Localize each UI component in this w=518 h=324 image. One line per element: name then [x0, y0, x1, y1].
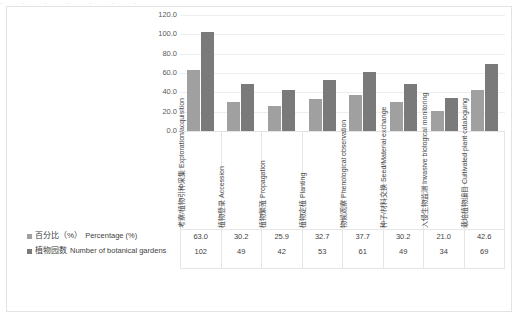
value-percentage: 25.9 [274, 232, 289, 242]
category-label-en: Seed/Material exchange [379, 107, 388, 183]
data-table-cell: 25.942 [261, 230, 302, 268]
category-label-cell: 植物登录Accession [221, 132, 262, 230]
category-label-cn: 物候观察 [339, 200, 348, 228]
chart-data-table: 百分比（%） Percentage (%) 植物园数 Number of bot… [7, 229, 511, 269]
bar-percentage[interactable] [268, 106, 281, 131]
category-label-cn: 考察/植物引种采集 [177, 170, 186, 228]
data-table-cell: 42.669 [464, 230, 506, 268]
category-label-cn: 种子/材料交换 [379, 184, 388, 228]
legend: 百分比（%） Percentage (%) 植物园数 Number of bot… [7, 229, 180, 269]
category-label-en: Propagation [258, 160, 267, 198]
legend-item-garden-count: 植物园数 Number of botanical gardens [27, 246, 180, 256]
value-garden-count: 61 [359, 247, 367, 257]
bar-garden-count[interactable] [241, 84, 254, 131]
category-label-cn: 入侵生物监测 [420, 186, 429, 228]
data-table-cell: 30.249 [221, 230, 262, 268]
bar-group [302, 15, 343, 131]
bar-garden-count[interactable] [485, 64, 498, 131]
legend-label-en: Number of botanical gardens [70, 246, 166, 256]
category-label-cell: 植物定植Planting [302, 132, 343, 230]
data-table-cell: 32.753 [302, 230, 343, 268]
category-label-cn: 植物繁殖 [258, 200, 267, 228]
category-label-en: Accession [217, 166, 226, 198]
bar-group [261, 15, 302, 131]
category-label-en: Exploration/acquisition [177, 98, 186, 168]
bar-percentage[interactable] [227, 102, 240, 131]
y-axis: 120.0100.080.060.040.020.00.0 [137, 15, 177, 131]
chart-frame: 120.0100.080.060.040.020.00.0 考察/植物引种采集E… [6, 6, 512, 312]
category-label-cell: 入侵生物监测Invasive biological monitoring [423, 132, 464, 230]
value-garden-count: 49 [237, 247, 245, 257]
value-percentage: 30.2 [396, 232, 411, 242]
bar-garden-count[interactable] [201, 32, 214, 131]
category-label-cn: 栽培植物编目 [460, 186, 469, 228]
bar-garden-count[interactable] [282, 90, 295, 131]
data-table-cell: 21.034 [423, 230, 464, 268]
legend-item-percentage: 百分比（%） Percentage (%) [27, 231, 180, 241]
legend-label-cn: 百分比（%） [35, 231, 82, 241]
legend-swatch-icon [27, 249, 32, 254]
bar-group [343, 15, 384, 131]
bar-group [221, 15, 262, 131]
value-garden-count: 69 [480, 247, 488, 257]
x-axis-category-labels: 考察/植物引种采集Exploration/acquisition植物登录Acce… [180, 132, 505, 230]
category-label-cell: 栽培植物编目Cultivated plant cataloguing [464, 132, 506, 230]
category-label-cell: 种子/材料交换Seed/Material exchange [383, 132, 424, 230]
plot-region: 120.0100.080.060.040.020.00.0 考察/植物引种采集E… [7, 7, 511, 227]
legend-label-cn: 植物园数 [35, 246, 67, 256]
value-garden-count: 49 [399, 247, 407, 257]
category-label-en: Planting [298, 173, 307, 198]
y-axis-tick-label: 20.0 [137, 108, 177, 116]
clipped-text-strip: · · · · · · · [0, 0, 518, 5]
value-garden-count: 34 [440, 247, 448, 257]
value-percentage: 30.2 [234, 232, 249, 242]
category-label-cn: 植物定植 [298, 200, 307, 228]
category-label-cell: 植物繁殖Propagation [261, 132, 302, 230]
category-label-en: Phenological observation [339, 120, 348, 198]
bar-garden-count[interactable] [323, 80, 336, 131]
y-axis-tick-label: 120.0 [137, 11, 177, 18]
data-table-values: 63.010230.24925.94232.75337.76130.24921.… [180, 229, 505, 269]
bar-garden-count[interactable] [404, 84, 417, 131]
bar-percentage[interactable] [309, 99, 322, 131]
y-axis-tick-label: 40.0 [137, 89, 177, 97]
y-axis-tick-label: 60.0 [137, 69, 177, 77]
legend-swatch-icon [27, 234, 32, 239]
category-label-cell: 考察/植物引种采集Exploration/acquisition [180, 132, 221, 230]
category-label-en: Invasive biological monitoring [420, 93, 429, 184]
value-garden-count: 53 [318, 247, 326, 257]
category-label-cell: 物候观察Phenological observation [342, 132, 383, 230]
data-table-cell: 37.761 [342, 230, 383, 268]
value-percentage: 32.7 [315, 232, 330, 242]
category-label-cn: 植物登录 [217, 200, 226, 228]
plot-area [180, 15, 505, 131]
legend-label-en: Percentage (%) [85, 231, 137, 241]
value-garden-count: 42 [278, 247, 286, 257]
data-table-cell: 30.249 [383, 230, 424, 268]
bars-layer [180, 15, 505, 131]
bar-garden-count[interactable] [445, 98, 458, 131]
bar-garden-count[interactable] [363, 72, 376, 131]
value-percentage: 37.7 [355, 232, 370, 242]
value-percentage: 42.6 [477, 232, 492, 242]
category-label-en: Cultivated plant cataloguing [460, 98, 469, 184]
value-percentage: 63.0 [193, 232, 208, 242]
value-garden-count: 102 [194, 247, 207, 257]
y-axis-tick-label: 100.0 [137, 31, 177, 39]
y-axis-tick-label: 0.0 [137, 127, 177, 135]
data-table-cell: 63.0102 [180, 230, 221, 268]
value-percentage: 21.0 [436, 232, 451, 242]
y-axis-tick-label: 80.0 [137, 50, 177, 58]
